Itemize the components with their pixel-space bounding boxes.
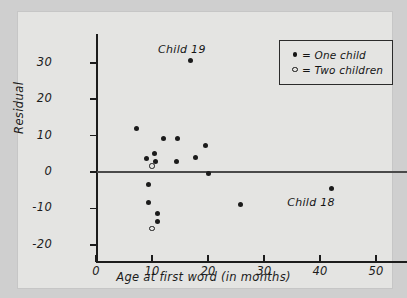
point-annotation: Child 18 xyxy=(287,196,335,209)
data-point-one-child xyxy=(174,159,179,164)
open-circle-icon xyxy=(288,67,302,72)
zero-reference-line xyxy=(90,171,407,173)
data-point-two-children xyxy=(149,163,154,168)
y-tick-label: 0 xyxy=(8,164,52,178)
data-point-one-child xyxy=(134,126,139,131)
data-point-one-child xyxy=(175,136,180,141)
data-point-one-child xyxy=(146,182,151,187)
data-point-one-child xyxy=(203,143,208,148)
data-point-one-child xyxy=(193,155,198,160)
data-point-one-child xyxy=(188,58,193,63)
legend-item-one-child: = One child xyxy=(288,47,384,62)
legend-label-two-children: = Two children xyxy=(302,64,383,76)
x-tick-mark xyxy=(319,255,321,262)
legend-label-one-child: = One child xyxy=(302,49,366,61)
x-axis-line xyxy=(96,261,407,263)
y-tick-mark xyxy=(90,62,97,64)
data-point-one-child xyxy=(161,136,166,141)
y-tick-label: -20 xyxy=(8,237,52,251)
plot-panel: 3020100-10-2001020304050 Residual Child … xyxy=(18,12,392,288)
x-tick-mark xyxy=(151,255,153,262)
data-point-one-child xyxy=(146,200,151,205)
legend-item-two-children: = Two children xyxy=(288,62,384,77)
data-point-one-child xyxy=(206,171,211,176)
x-tick-mark xyxy=(95,255,97,262)
data-point-one-child xyxy=(329,186,334,191)
legend-box: = One child = Two children xyxy=(279,40,393,85)
scatter-plot-figure: 3020100-10-2001020304050 Residual Child … xyxy=(0,0,407,298)
y-tick-mark xyxy=(90,171,97,173)
x-tick-mark xyxy=(375,255,377,262)
data-point-one-child xyxy=(238,202,243,207)
y-tick-label: -10 xyxy=(8,200,52,214)
y-axis-label: Residual xyxy=(12,82,26,134)
point-annotation: Child 19 xyxy=(158,43,206,56)
data-point-two-children xyxy=(149,226,154,231)
x-tick-mark xyxy=(263,255,265,262)
data-point-one-child xyxy=(155,219,160,224)
y-tick-mark xyxy=(90,135,97,137)
y-axis-line xyxy=(96,34,98,262)
y-tick-mark xyxy=(90,98,97,100)
y-tick-mark xyxy=(90,208,97,210)
data-point-one-child xyxy=(152,151,157,156)
x-axis-label: Age at first word (in months) xyxy=(0,270,407,284)
y-tick-mark xyxy=(90,244,97,246)
x-tick-mark xyxy=(207,255,209,262)
filled-dot-icon xyxy=(288,52,302,57)
y-tick-label: 30 xyxy=(8,55,52,69)
data-point-one-child xyxy=(155,211,160,216)
data-point-one-child xyxy=(144,156,149,161)
